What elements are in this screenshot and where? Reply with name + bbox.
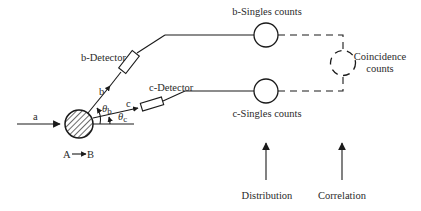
theta-b-subscript: b [107, 106, 112, 116]
coincidence-connection: Coincidence counts [278, 35, 407, 91]
b-singles-counter: b-Singles counts [232, 6, 302, 47]
beam-a: a [17, 111, 60, 124]
svg-text:θc: θc [118, 111, 127, 124]
c-singles-label: c-Singles counts [232, 108, 301, 119]
correlation-label: Correlation [318, 190, 367, 201]
theta-c-angle: θc [109, 111, 127, 124]
reaction-from: A [63, 149, 71, 160]
c-particle-label: c [126, 98, 131, 109]
c-singles-counter: c-Singles counts [232, 79, 301, 119]
c-detector [140, 97, 163, 111]
distribution-label: Distribution [242, 190, 294, 201]
c-detector-label: c-Detector [149, 82, 194, 93]
theta-c-subscript: c [123, 114, 127, 124]
reaction-to: B [87, 149, 94, 160]
b-particle-label: b [99, 86, 104, 97]
b-path: b b-Detector [81, 35, 254, 113]
target-sphere [65, 110, 93, 138]
reaction-label: A B [63, 149, 94, 160]
reaction-diagram: a A B b b-Detector c c-Detector [0, 0, 421, 211]
b-detector-label: b-Detector [81, 52, 126, 63]
beam-label: a [33, 111, 38, 122]
b-singles-label: b-Singles counts [232, 6, 302, 17]
distribution-arrow: Distribution [242, 143, 294, 201]
coincidence-label-line1: Coincidence [354, 51, 407, 62]
svg-text:θb: θb [102, 103, 112, 116]
coincidence-label-line2: counts [366, 63, 393, 74]
correlation-arrow: Correlation [318, 143, 367, 201]
